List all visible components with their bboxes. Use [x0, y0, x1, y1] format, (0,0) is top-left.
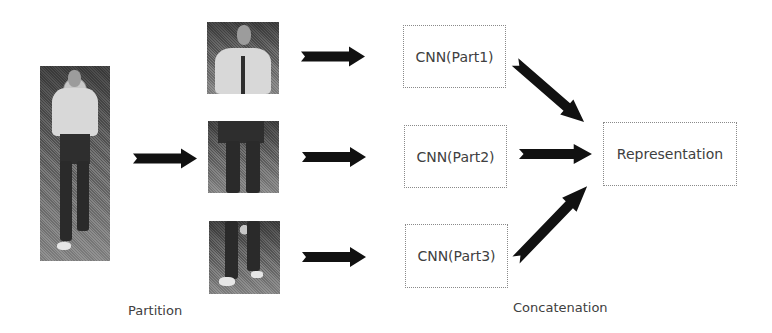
arrow-cnn2-to-representation-icon [519, 144, 592, 164]
arrow-part3-to-cnn-icon [302, 247, 366, 267]
arrow-cnn1-to-representation-icon [508, 54, 590, 129]
arrows-layer [0, 0, 772, 333]
arrow-partition-icon [133, 149, 197, 169]
arrow-part1-to-cnn-icon [301, 47, 365, 67]
arrow-part2-to-cnn-icon [302, 147, 366, 167]
arrow-cnn3-to-representation-icon [509, 179, 595, 267]
